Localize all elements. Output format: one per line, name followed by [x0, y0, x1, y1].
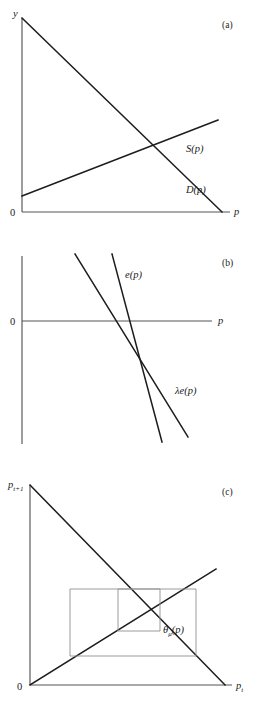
panel-c-y-axis-label: pt+1 — [7, 479, 23, 493]
panel-c: 0 pt+1 pt θμ(p) (c) — [0, 461, 260, 707]
panel-b: 0 p e(p) λe(p) (b) — [0, 236, 260, 461]
panel-a: y p 0 S(p) D(p) (a) — [0, 0, 260, 236]
panel-a-demand-label: D(p) — [185, 184, 206, 196]
panel-a-plot: y p 0 S(p) D(p) (a) — [0, 0, 260, 236]
panel-b-origin-label: 0 — [10, 316, 15, 327]
panel-c-x-axis-label-sub: t — [241, 686, 244, 694]
panel-c-cobweb-inner — [118, 589, 160, 631]
panel-b-tag: (b) — [222, 258, 233, 269]
panel-c-y-axis-label-sub: t+1 — [13, 485, 23, 493]
panel-a-supply-label: S(p) — [186, 143, 204, 155]
panel-a-x-axis-label: p — [233, 206, 239, 217]
panel-a-origin-label: 0 — [10, 207, 15, 218]
panel-c-price-map-label: θμ(p) — [163, 624, 184, 638]
panel-b-x-axis-label: p — [217, 315, 223, 326]
figure-root: y p 0 S(p) D(p) (a) 0 p e(p) λe(p) (b) — [0, 0, 260, 707]
panel-a-y-axis-label: y — [12, 8, 18, 19]
panel-c-forty-five-degree-line — [30, 569, 216, 685]
panel-b-plot: 0 p e(p) λe(p) (b) — [0, 236, 260, 461]
panel-b-excess-demand-label: e(p) — [125, 269, 142, 281]
panel-a-tag: (a) — [222, 20, 233, 31]
panel-c-x-axis-label: pt — [235, 680, 244, 694]
panel-c-origin-label: 0 — [17, 681, 22, 692]
panel-c-tag: (c) — [222, 487, 233, 498]
panel-a-demand-curve — [22, 18, 222, 212]
panel-c-price-map-label-rest: (p) — [172, 624, 185, 636]
panel-b-scaled-excess-demand-curve — [75, 254, 188, 437]
panel-c-plot: 0 pt+1 pt θμ(p) (c) — [0, 461, 260, 707]
panel-b-excess-demand-curve — [112, 254, 162, 442]
panel-b-scaled-excess-demand-label: λe(p) — [174, 385, 197, 397]
panel-c-cobweb-outer — [70, 589, 196, 656]
